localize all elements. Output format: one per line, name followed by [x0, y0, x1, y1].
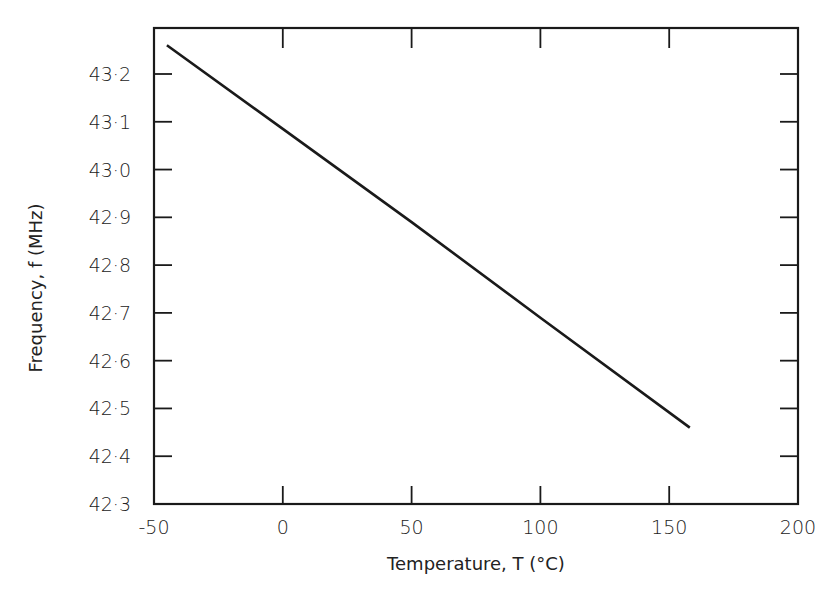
x-tick-label: -50: [138, 516, 169, 538]
y-tick-label: 42·5: [89, 397, 131, 419]
y-tick-label: 43·0: [89, 159, 131, 181]
plot-frame: [154, 28, 798, 504]
y-tick-label: 42·9: [89, 206, 131, 228]
data-series: [167, 45, 690, 427]
y-tick-label: 42·4: [89, 445, 131, 467]
plot-border: [154, 28, 798, 504]
x-tick-label: 100: [522, 516, 558, 538]
y-tick-label: 42·8: [89, 254, 131, 276]
x-tick-label: 50: [400, 516, 424, 538]
y-tick-label: 42·7: [89, 302, 131, 324]
x-axis-ticks: -50050100150200: [138, 28, 816, 538]
x-tick-label: 150: [651, 516, 687, 538]
series-line: [167, 45, 690, 427]
y-tick-label: 43·1: [89, 111, 131, 133]
x-tick-label: 0: [277, 516, 289, 538]
y-tick-label: 43·2: [89, 63, 131, 85]
y-tick-label: 42·3: [89, 493, 131, 515]
y-tick-label: 42·6: [89, 350, 131, 372]
y-axis-ticks: 42·342·442·542·642·742·842·943·043·143·2: [89, 63, 798, 515]
y-axis-title: Frequency, f (MHz): [25, 203, 46, 372]
x-axis-title: Temperature, T (°C): [386, 553, 565, 574]
chart-canvas: -50050100150200 42·342·442·542·642·742·8…: [0, 0, 830, 598]
x-tick-label: 200: [780, 516, 816, 538]
